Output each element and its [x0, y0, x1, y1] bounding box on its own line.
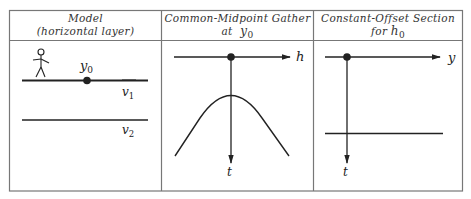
header-model: Model (horizontal layer) [10, 12, 161, 38]
origin-marker [227, 53, 235, 61]
midpoint-marker [83, 77, 91, 85]
t-axis-label: t [227, 165, 232, 179]
person-icon [33, 49, 49, 77]
svg-text:v1: v1 [122, 85, 134, 101]
svg-text:y0: y0 [79, 58, 93, 75]
panel-cmp-gather: h t [174, 49, 304, 179]
header-model-line1: Model [10, 12, 161, 25]
y-axis-label: y [447, 50, 456, 65]
panel-model: y0 v1 v2 [22, 49, 148, 139]
header-cmp-line2: at y0 [162, 25, 313, 42]
svg-text:v2: v2 [122, 123, 134, 139]
header-co-line1: Constant-Offset Section [314, 12, 462, 25]
header-model-line2: (horizontal layer) [10, 25, 161, 38]
panel-constant-offset: y t [325, 50, 456, 179]
header-co-line2: for h0 [314, 25, 462, 42]
header-cmp-gather: Common-Midpoint Gather at y0 [162, 12, 313, 42]
origin-marker [343, 53, 351, 61]
point-label-sub: 0 [87, 65, 93, 75]
hyperbola-curve [175, 96, 289, 157]
t-axis-label: t [343, 165, 348, 179]
header-constant-offset: Constant-Offset Section for h0 [314, 12, 462, 42]
h-axis-label: h [296, 49, 304, 64]
